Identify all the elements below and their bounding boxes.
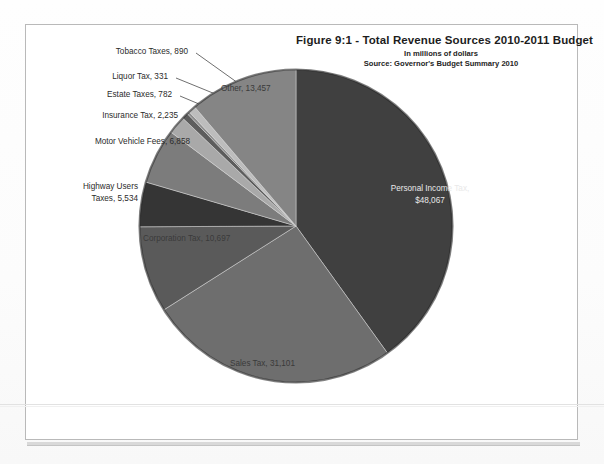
slice-label-liquor: Liquor Tax, 331: [8, 71, 168, 82]
slice-label-corporation: Corporation Tax, 10,697: [143, 233, 230, 244]
slice-label-highway-users-line1: Highway Users: [8, 181, 138, 193]
slice-label-insurance: Insurance Tax, 2,235: [8, 110, 178, 121]
slice-label-motor-vehicle: Motor Vehicle Fees, 6,858: [8, 136, 190, 147]
pie-slices: [139, 70, 452, 383]
slice-label-tobacco: Tobacco Taxes, 890: [8, 46, 188, 57]
slice-label-sales: Sales Tax, 31,101: [230, 358, 295, 369]
slice-label-other: Other, 13,457: [221, 83, 271, 94]
slice-label-estate: Estate Taxes, 782: [8, 89, 172, 100]
slice-label-highway-users-line2: Taxes, 5,534: [8, 193, 138, 205]
slice-label-personal-income-line1: Personal Income Tax,: [368, 183, 492, 195]
slice-label-personal-income-line2: $48,067: [368, 195, 492, 207]
pie-chart-svg: [0, 0, 604, 464]
slice-label-highway-users: Highway Users Taxes, 5,534: [8, 181, 138, 204]
scanned-page: Figure 9:1 - Total Revenue Sources 2010-…: [0, 0, 604, 464]
pie-chart: [0, 0, 604, 464]
slice-label-personal-income: Personal Income Tax, $48,067: [368, 183, 492, 206]
